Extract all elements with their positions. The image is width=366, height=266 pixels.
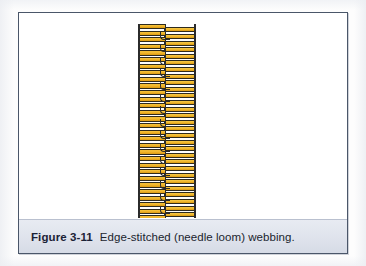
weft-bar-right: [166, 41, 194, 46]
weft-bar-right: [166, 179, 194, 184]
weft-bar-right: [166, 212, 194, 217]
weft-bar-left: [140, 64, 165, 69]
weft-bar-left: [140, 90, 165, 95]
weft-bar-left: [140, 163, 165, 168]
weft-bar-left: [140, 182, 165, 187]
weft-bar-right: [166, 87, 194, 92]
weft-bar-left: [140, 116, 165, 121]
weft-bar-right: [166, 47, 194, 52]
weft-bar-right: [166, 146, 194, 151]
weft-bar-left: [140, 189, 165, 194]
weft-bar-left: [140, 123, 165, 128]
figure-frame: Figure 3-11 Edge-stitched (needle loom) …: [18, 12, 348, 254]
weft-bar-right: [166, 126, 194, 131]
weft-bar-right: [166, 54, 194, 59]
weft-bar-left: [140, 156, 165, 161]
weft-bar-right: [166, 140, 194, 145]
weft-bar-left: [140, 37, 165, 42]
weft-bar-left: [140, 44, 165, 49]
figure-caption-text: Edge-stitched (needle loom) webbing.: [100, 231, 295, 243]
weft-bar-left: [140, 31, 165, 36]
weft-bar-right: [166, 107, 194, 112]
weft-column-left: [140, 24, 165, 218]
weft-bar-right: [166, 80, 194, 85]
weft-bar-right: [166, 133, 194, 138]
weft-bar-left: [140, 202, 165, 207]
weft-bar-left: [140, 70, 165, 75]
weft-bar-left: [140, 209, 165, 214]
weft-bar-left: [140, 176, 165, 181]
weft-bar-right: [166, 199, 194, 204]
weft-bar-left: [140, 196, 165, 201]
weft-bar-right: [166, 113, 194, 118]
weft-bar-left: [140, 97, 165, 102]
weft-bar-left: [140, 83, 165, 88]
weft-bar-right: [166, 60, 194, 65]
weft-bar-right: [166, 67, 194, 72]
weft-bar-right: [166, 153, 194, 158]
weft-bar-left: [140, 24, 165, 29]
weft-bar-right: [166, 93, 194, 98]
weft-column-right: [166, 24, 194, 218]
weft-bar-right: [166, 34, 194, 39]
weft-bar-left: [140, 50, 165, 55]
weft-bar-right: [166, 186, 194, 191]
weft-bar-left: [140, 143, 165, 148]
weft-bar-left: [140, 169, 165, 174]
weft-bar-right: [166, 27, 194, 32]
weft-bar-right: [166, 100, 194, 105]
figure-caption-bar: Figure 3-11 Edge-stitched (needle loom) …: [19, 219, 347, 253]
weft-bar-left: [140, 103, 165, 108]
weft-bar-right: [166, 120, 194, 125]
weft-bar-right: [166, 206, 194, 211]
weft-bar-right: [166, 74, 194, 79]
weft-bar-left: [140, 149, 165, 154]
weft-bar-right: [166, 192, 194, 197]
weft-bar-left: [140, 130, 165, 135]
figure-page: Figure 3-11 Edge-stitched (needle loom) …: [0, 0, 366, 266]
weft-bar-right: [166, 166, 194, 171]
edge-stitched-webbing-diagram: [138, 24, 196, 218]
weft-bar-left: [140, 110, 165, 115]
weft-bar-left: [140, 215, 165, 218]
weft-bar-right: [166, 159, 194, 164]
figure-number-label: Figure 3-11: [31, 231, 93, 243]
warp-line-right: [194, 24, 196, 218]
weft-bar-right: [166, 173, 194, 178]
weft-bar-left: [140, 77, 165, 82]
weft-bar-left: [140, 57, 165, 62]
weft-bar-left: [140, 136, 165, 141]
illustration-area: [19, 13, 347, 218]
